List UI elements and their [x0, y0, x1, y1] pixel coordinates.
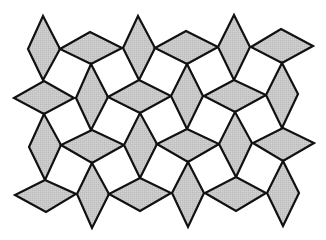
- rhombus-tile-vertical: [171, 64, 203, 129]
- rhombus-tile-horizontal: [155, 31, 218, 64]
- rhombus-tile-vertical: [267, 161, 299, 226]
- rhombus-tile-vertical: [266, 63, 298, 128]
- rhombus-tile-horizontal: [14, 81, 74, 114]
- rhombus-tile-horizontal: [109, 178, 171, 211]
- rhombus-tile-horizontal: [15, 180, 76, 212]
- rhombus-tile-vertical: [28, 16, 60, 80]
- rhombus-tile-vertical: [29, 114, 61, 180]
- rhombus-tile-vertical: [124, 113, 157, 178]
- rhombus-tile-vertical: [218, 15, 250, 80]
- rhombus-tile-vertical: [219, 112, 252, 177]
- rhombus-tile-horizontal: [251, 29, 313, 63]
- rhombus-tile-horizontal: [60, 32, 122, 64]
- rhombus-group: [14, 15, 314, 228]
- rhombus-tile-vertical: [76, 64, 108, 130]
- rhombus-tile-vertical: [123, 16, 155, 80]
- rhombus-tile-horizontal: [157, 129, 219, 162]
- rhombus-tiling: [0, 0, 326, 240]
- rhombus-tile-vertical: [77, 163, 109, 228]
- rhombus-tile-horizontal: [61, 130, 124, 163]
- rhombus-tile-horizontal: [253, 128, 314, 161]
- rhombus-tile-horizontal: [204, 80, 266, 112]
- rhombus-tile-horizontal: [108, 80, 171, 113]
- tessellation-canvas: [0, 0, 326, 240]
- rhombus-tile-horizontal: [205, 177, 266, 211]
- rhombus-tile-vertical: [172, 162, 204, 227]
